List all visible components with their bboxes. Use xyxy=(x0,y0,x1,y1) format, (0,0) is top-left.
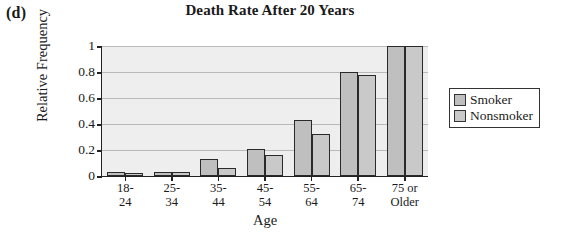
bar-smoker xyxy=(294,120,312,176)
y-tick-label: 0.2 xyxy=(78,142,95,158)
bar-nonsmoker xyxy=(172,172,190,176)
legend-swatch xyxy=(454,94,466,106)
bar-groups: 18-2425-3435-4445-5455-6465-7475 or Olde… xyxy=(102,46,428,176)
legend-item-nonsmoker: Nonsmoker xyxy=(454,108,533,124)
bar-nonsmoker xyxy=(125,173,143,176)
legend-item-smoker: Smoker xyxy=(454,92,533,108)
y-tick-mark xyxy=(97,176,102,178)
y-tick-label: 0.8 xyxy=(78,64,95,80)
x-tick-label: 65-74 xyxy=(347,181,370,209)
x-tick-label: 35-44 xyxy=(207,181,230,209)
legend-label: Smoker xyxy=(470,92,512,108)
legend: SmokerNonsmoker xyxy=(449,88,540,128)
bar-group: 55-64 xyxy=(288,46,335,176)
bar-group: 35-44 xyxy=(195,46,242,176)
x-tick-label: 25-34 xyxy=(160,181,183,209)
figure: (d) Death Rate After 20 Years Relative F… xyxy=(0,0,569,241)
bar-smoker xyxy=(340,72,358,176)
y-axis-label: Relative Frequency xyxy=(34,0,51,146)
bar-smoker xyxy=(107,172,125,176)
bar-nonsmoker xyxy=(312,134,330,176)
panel-label: (d) xyxy=(6,4,26,22)
bar-group: 75 or Older xyxy=(381,46,428,176)
plot-area: 00.20.40.60.81 18-2425-3435-4445-5455-64… xyxy=(101,46,428,177)
y-tick-label: 0.6 xyxy=(78,90,95,106)
chart-title: Death Rate After 20 Years xyxy=(110,2,430,19)
bar-group: 45-54 xyxy=(242,46,289,176)
x-tick-label: 75 or Older xyxy=(391,181,419,209)
bar-nonsmoker xyxy=(265,155,283,176)
y-tick-label: 0.4 xyxy=(78,116,95,132)
bar-smoker xyxy=(247,149,265,176)
x-tick-label: 55-64 xyxy=(300,181,323,209)
y-tick-label: 0 xyxy=(88,168,95,184)
bar-smoker xyxy=(387,46,405,176)
bar-nonsmoker xyxy=(218,168,236,176)
x-tick-label: 18-24 xyxy=(114,181,137,209)
bar-nonsmoker xyxy=(358,75,376,176)
y-tick-label: 1 xyxy=(88,38,95,54)
x-axis-label: Age xyxy=(100,212,430,229)
bar-group: 65-74 xyxy=(335,46,382,176)
bar-smoker xyxy=(200,159,218,176)
legend-label: Nonsmoker xyxy=(470,108,533,124)
bar-smoker xyxy=(154,172,172,176)
bar-group: 18-24 xyxy=(102,46,149,176)
legend-swatch xyxy=(454,110,466,122)
bar-group: 25-34 xyxy=(149,46,196,176)
x-tick-label: 45-54 xyxy=(253,181,276,209)
bar-nonsmoker xyxy=(405,46,423,176)
